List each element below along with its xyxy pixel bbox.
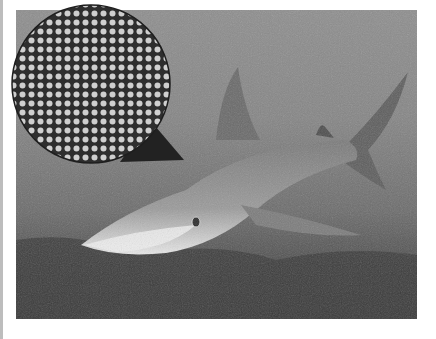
halftone-magnifier-inset xyxy=(0,0,200,180)
magnifier-circle xyxy=(12,5,170,163)
